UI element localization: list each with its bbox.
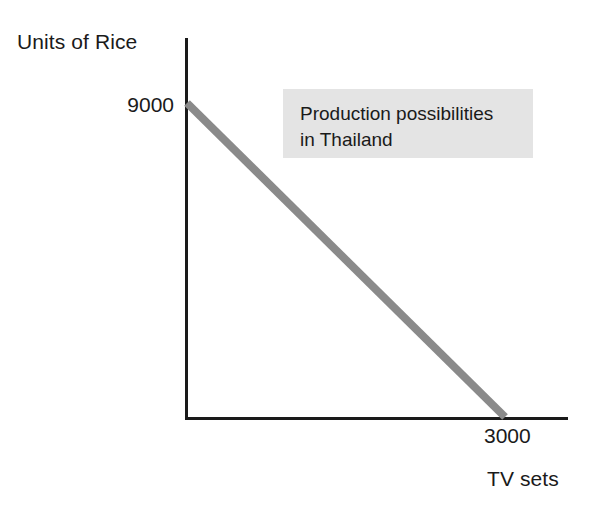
x-axis-tick-label-3000: 3000 [484,424,531,448]
x-axis-title: TV sets [487,467,559,491]
y-axis-tick-label-9000: 9000 [127,93,174,117]
annotation-line-1: Production possibilities [300,101,533,127]
chart-annotation-box: Production possibilities in Thailand [283,89,533,158]
ppf-chart-figure: Units of Rice 9000 3000 TV sets Producti… [0,0,599,505]
x-axis-line [185,417,568,420]
annotation-line-2: in Thailand [300,127,533,153]
y-axis-title: Units of Rice [17,30,137,54]
y-axis-line [185,38,188,420]
